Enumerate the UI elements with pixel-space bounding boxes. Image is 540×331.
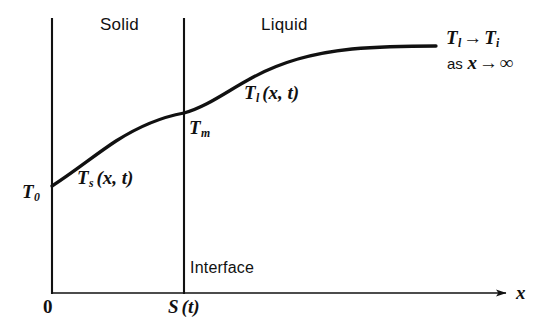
limit-rhs-symbol: T (484, 27, 496, 48)
limit-line-1: Tl→Ti (446, 27, 499, 48)
limit-rhs-subscript: i (496, 37, 500, 50)
limit-variable: x (468, 52, 478, 73)
right-arrow-icon-2: → (477, 52, 500, 73)
st-arguments: (t) (179, 296, 200, 317)
liquid-temperature-curve (184, 46, 436, 113)
region-label-liquid: Liquid (261, 16, 308, 33)
t0-symbol: T (22, 181, 34, 202)
limit-as-word: as (447, 55, 463, 72)
tm-symbol: T (189, 117, 201, 138)
axis-origin-label: 0 (43, 297, 53, 316)
tl-arguments: (x, t) (259, 82, 299, 103)
interface-label: Interface (190, 260, 254, 276)
axis-interface-position-label: S(t) (168, 297, 200, 316)
label-t0: T0 (22, 182, 40, 204)
region-label-solid: Solid (100, 16, 139, 33)
tl-symbol: T (244, 82, 256, 103)
ts-arguments: (x, t) (94, 167, 134, 188)
limit-lhs-symbol: T (446, 27, 458, 48)
stefan-problem-figure: Solid Liquid Interface T0 Ts(x, t) Tm Tl… (0, 0, 540, 331)
label-tm: Tm (189, 118, 210, 140)
label-ts: Ts(x, t) (77, 168, 133, 190)
t0-subscript: 0 (34, 191, 40, 204)
ts-subscript: s (89, 177, 94, 190)
ts-symbol: T (77, 167, 89, 188)
tm-subscript: m (201, 127, 210, 140)
limit-line-2: as x→∞ (447, 53, 514, 72)
x-axis-label: x (516, 283, 526, 302)
limit-annotation: Tl→Ti as x→∞ (446, 28, 514, 72)
right-arrow-icon: → (461, 27, 484, 48)
infinity-icon: ∞ (500, 52, 514, 73)
st-symbol: S (168, 296, 179, 317)
label-tl: Tl(x, t) (244, 83, 299, 105)
